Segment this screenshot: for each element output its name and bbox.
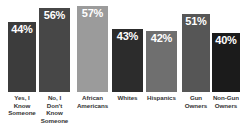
bar-chart: 44% Yes, I Know Someone 56% No, I Don't … <box>0 0 241 132</box>
bar-whites: 43% <box>112 29 143 92</box>
bar-gun-owners: 51% <box>182 14 210 92</box>
bar-value-label: 51% <box>182 16 210 27</box>
bar-value-label: 43% <box>112 31 143 42</box>
bar-no-dont-know-someone: 56% <box>39 8 70 92</box>
bar-yes-know-someone: 44% <box>8 22 36 92</box>
bar-slot-non-gun-owners: 40% Non-Gun Owners <box>212 0 240 132</box>
bar-category-label: Non-Gun Owners <box>206 91 241 132</box>
bar-african-americans: 57% <box>77 6 108 92</box>
bar-category-label: No, I Don't Know Someone <box>33 91 76 132</box>
bar-non-gun-owners: 40% <box>212 33 240 92</box>
bar-hispanics: 42% <box>146 31 177 92</box>
bar-slot-whites: 43% Whites <box>112 0 143 132</box>
bar-slot-african-americans: 57% African Americans <box>77 0 108 132</box>
bar-slot-no-dont-know-someone: 56% No, I Don't Know Someone <box>39 0 70 132</box>
bar-slot-hispanics: 42% Hispanics <box>146 0 177 132</box>
bar-value-label: 40% <box>212 35 240 46</box>
bar-value-label: 56% <box>39 10 70 21</box>
bar-value-label: 57% <box>77 8 108 19</box>
bar-slot-yes-know-someone: 44% Yes, I Know Someone <box>8 0 36 132</box>
bar-value-label: 44% <box>8 24 36 35</box>
bar-value-label: 42% <box>146 33 177 44</box>
